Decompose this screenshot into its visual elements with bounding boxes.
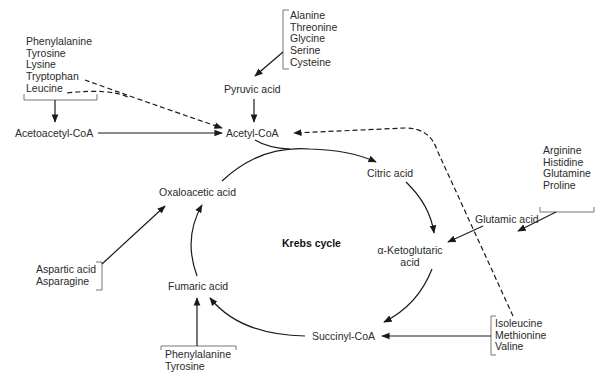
glutamate-amino-acids: Arginine Histidine Glutamine Proline (543, 145, 591, 192)
pyruvic-acid-label: Pyruvic acid (224, 83, 281, 95)
fumarate-amino-acids: Phenylalanine Tyrosine (165, 349, 231, 372)
krebs-cycle-title: Krebs cycle (282, 237, 341, 249)
amino-acid: Alanine (290, 10, 337, 22)
arrow-fumaric-to-oxaloacetic (191, 205, 202, 276)
acetylcoa-join-curve (255, 140, 290, 149)
amino-acid: Asparagine (36, 276, 96, 288)
oxaloacetate-amino-acids: Aspartic acid Asparagine (36, 264, 96, 287)
arrow-group-to-pyruvic (255, 52, 283, 76)
fumaric-acid-label: Fumaric acid (168, 280, 228, 292)
oxaloacetic-acid-label: Oxaloacetic acid (159, 186, 236, 198)
arrow-succinyl-to-fumaric (210, 298, 305, 336)
arrow-akg-to-succinyl (384, 269, 432, 322)
succinyl-amino-acids: Isoleucine Methionine Valine (495, 318, 546, 353)
akg-line2: acid (376, 257, 444, 269)
amino-acid: Cysteine (290, 57, 337, 69)
glutamic-acid-label: Glutamic acid (475, 213, 539, 225)
amino-acid: Phenylalanine (165, 349, 231, 361)
bracket-pyruvate-group (283, 10, 289, 69)
bracket-oxaloacetate-group (96, 262, 102, 290)
citric-acid-label: Citric acid (367, 167, 413, 179)
arrow-citric-to-akg (406, 182, 434, 233)
akg-line1: α-Ketoglutaric (376, 245, 444, 257)
amino-acid: Leucine (26, 83, 92, 95)
amino-acid: Isoleucine (495, 318, 546, 330)
amino-acid: Arginine (543, 145, 591, 157)
amino-acid: Tyrosine (165, 361, 231, 373)
acetoacetyl-coa-label: Acetoacetyl-CoA (15, 127, 93, 139)
alpha-ketoglutaric-label: α-Ketoglutaric acid (376, 245, 444, 268)
arrow-group-to-oxaloacetic (102, 206, 165, 264)
amino-acid: Proline (543, 180, 591, 192)
amino-acid: Aspartic acid (36, 264, 96, 276)
amino-acid: Phenylalanine (26, 36, 92, 48)
dashed-tryptophan-to-acetylcoa (85, 80, 222, 128)
bracket-ketogenic (24, 94, 97, 100)
amino-acid: Valine (495, 341, 546, 353)
acetyl-coa-label: Acetyl-CoA (226, 127, 279, 139)
arrow-oxaloacetic-to-citric (222, 149, 376, 181)
succinyl-coa-label: Succinyl-CoA (312, 330, 375, 342)
ketogenic-amino-acids: Phenylalanine Tyrosine Lysine Tryptophan… (26, 36, 92, 95)
pyruvate-amino-acids: Alanine Threonine Glycine Serine Cystein… (290, 10, 337, 69)
bracket-glutamate-group (540, 207, 594, 212)
